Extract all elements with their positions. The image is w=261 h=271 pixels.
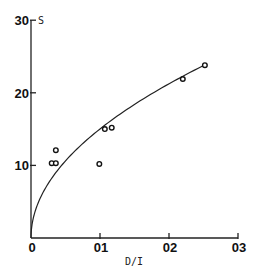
y-tick-label: 20: [15, 86, 29, 101]
data-points: [49, 63, 207, 166]
y-tick-label: 10: [15, 158, 29, 173]
axes: [30, 20, 238, 239]
data-point: [54, 161, 59, 166]
axis-labels: 1020300010203SD/I: [15, 13, 247, 267]
x-tick-label: 01: [94, 240, 108, 255]
y-tick-label: 30: [15, 13, 29, 28]
x-tick-label: 03: [232, 240, 246, 255]
x-tick-label: 02: [163, 240, 177, 255]
x-axis-title: D/I: [125, 256, 143, 267]
x-tick-label: 0: [28, 240, 35, 255]
data-point: [109, 125, 114, 130]
data-point: [181, 77, 186, 82]
chart: 1020300010203SD/I: [0, 0, 261, 271]
data-point: [203, 63, 208, 68]
data-point: [103, 127, 108, 132]
y-axis-title: S: [38, 15, 44, 26]
data-point: [54, 148, 59, 153]
data-point: [97, 162, 102, 167]
